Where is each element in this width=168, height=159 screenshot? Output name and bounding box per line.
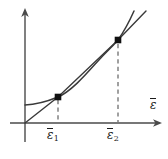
epsilon-glyph-1: ε	[47, 128, 53, 142]
overbar-group-2: ε	[107, 129, 113, 141]
plot-canvas	[0, 0, 168, 159]
overbar-icon-axis	[150, 98, 156, 99]
point-marker-1	[55, 94, 61, 100]
secant-line	[25, 11, 146, 123]
tick-label-epsilon-bar-1: ε1	[47, 129, 59, 143]
point-marker-2	[115, 37, 121, 43]
subscript-2: 2	[114, 134, 119, 143]
x-axis-label: ε	[150, 99, 156, 111]
overbar-group-1: ε	[47, 129, 53, 141]
overbar-icon-1	[47, 128, 53, 129]
overbar-icon-2	[107, 128, 113, 129]
epsilon-glyph-2: ε	[107, 128, 113, 142]
tick-label-epsilon-bar-2: ε2	[107, 129, 119, 143]
figure-root: ε1 ε2 ε	[0, 0, 168, 159]
epsilon-glyph-axis: ε	[150, 98, 156, 112]
subscript-1: 1	[54, 134, 59, 143]
overbar-group-axis: ε	[150, 99, 156, 111]
